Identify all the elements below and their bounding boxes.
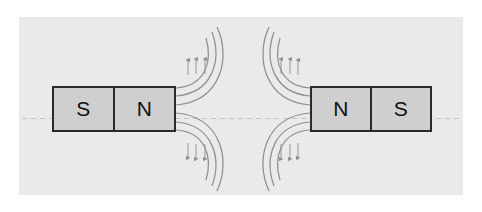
magnet-right-pole-south: S (372, 88, 430, 130)
magnetic-field-figure: S N N S (0, 0, 482, 212)
magnet-left-pole-south: S (54, 88, 115, 130)
bar-magnet-right: N S (310, 86, 432, 132)
magnet-left-pole-north: N (115, 88, 174, 130)
magnet-right-pole-north: N (312, 88, 372, 130)
bar-magnet-left: S N (52, 86, 176, 132)
